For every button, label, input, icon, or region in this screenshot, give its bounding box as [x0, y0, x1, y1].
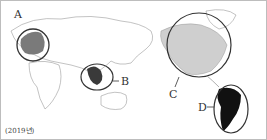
map-graphic: [1, 1, 266, 139]
world-map: A B C D (2019년): [0, 0, 267, 140]
africa-landmass: [29, 61, 61, 109]
australia-landmass: [101, 92, 127, 109]
label-a: A: [14, 9, 22, 20]
greenland-landmass: [206, 10, 236, 29]
region-d-fill: [217, 88, 241, 131]
label-d: D: [198, 102, 207, 113]
label-c: C: [169, 89, 177, 100]
label-b: B: [121, 76, 129, 87]
year-caption: (2019년): [5, 125, 34, 135]
